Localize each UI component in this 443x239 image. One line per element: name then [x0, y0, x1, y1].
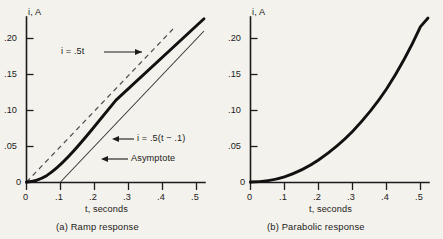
annotation-leader-ramp: [104, 49, 142, 55]
x-axis-ticks-b: [251, 183, 421, 190]
y-tick-label-a-2: .10: [4, 106, 17, 115]
x-axis-title-a: t, seconds: [85, 205, 128, 214]
figure-container: i, A .20 .15 .10 .05 0 0 .1 .2 .3 .4 .5 …: [0, 0, 443, 239]
y-tick-label-a-4: 0: [16, 178, 21, 187]
y-tick-label-a-1: .15: [4, 70, 17, 79]
x-tick-label-a-0: 0: [23, 193, 28, 202]
annotation-ramp-equation: i = .5t: [61, 47, 84, 56]
response-curve-b: [251, 18, 429, 182]
response-curve-a: [27, 19, 205, 182]
x-tick-label-a-3: .3: [123, 193, 131, 202]
x-axis-title-b: t, seconds: [309, 205, 352, 214]
y-tick-label-b-2: .10: [228, 106, 241, 115]
x-tick-label-b-5: .5: [415, 193, 423, 202]
panel-parabolic-response: i, A .20 .15 .10 .05 0 0 .1 .2 .3 .4 .5 …: [221, 0, 443, 239]
caption-panel-a: (a) Ramp response: [56, 221, 139, 232]
x-tick-label-b-3: .3: [347, 193, 355, 202]
annotation-leader-curve: [112, 136, 134, 142]
x-tick-label-a-4: .4: [157, 193, 165, 202]
annotation-leader-asymptote: [101, 156, 128, 162]
y-axis-ticks-b: [251, 39, 258, 147]
y-tick-label-b-4: 0: [240, 178, 245, 187]
x-tick-label-a-1: .1: [55, 193, 63, 202]
annotation-curve-equation: i = .5(t − .1): [137, 134, 185, 143]
caption-panel-b: (b) Parabolic response: [267, 221, 365, 232]
annotation-asymptote-label: Asymptote: [131, 154, 175, 163]
y-axis-title-a: i, A: [28, 8, 41, 17]
y-tick-label-a-3: .05: [4, 142, 17, 151]
y-tick-label-b-0: .20: [228, 34, 241, 43]
y-axis-title-b: i, A: [252, 8, 265, 17]
panel-ramp-response: i, A .20 .15 .10 .05 0 0 .1 .2 .3 .4 .5 …: [0, 0, 221, 239]
y-tick-label-b-1: .15: [228, 70, 241, 79]
x-tick-label-a-5: .5: [191, 193, 199, 202]
x-axis-ticks-a: [27, 183, 197, 190]
x-tick-label-b-4: .4: [381, 193, 389, 202]
y-axis-ticks-a: [27, 39, 34, 147]
x-tick-label-b-1: .1: [279, 193, 287, 202]
x-tick-label-b-0: 0: [247, 193, 252, 202]
y-tick-label-a-0: .20: [4, 34, 17, 43]
x-tick-label-a-2: .2: [89, 193, 97, 202]
x-tick-label-b-2: .2: [313, 193, 321, 202]
y-tick-label-b-3: .05: [228, 142, 241, 151]
